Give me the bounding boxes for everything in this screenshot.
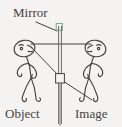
object-label: Object (5, 107, 40, 120)
image-front-leg (79, 79, 88, 102)
object-face (19, 45, 33, 52)
incident-ray (31, 47, 60, 77)
image-back-leg (89, 78, 98, 102)
mirror-assembly (56, 24, 65, 127)
image-label: Image (75, 107, 107, 120)
image-face (87, 45, 101, 52)
image-back-arm (91, 63, 102, 76)
object-back-arm (17, 63, 28, 76)
object-back-leg (22, 78, 31, 102)
mirror-pivot-box (56, 74, 65, 83)
mirror-label: Mirror (13, 6, 48, 19)
object-stick-figure (13, 39, 41, 102)
image-torso (89, 57, 94, 79)
image-stick-figure (79, 39, 107, 102)
plane-mirror-ray-diagram: Mirror Object Image (0, 0, 122, 127)
mirror-leader-line (36, 22, 57, 31)
object-torso (27, 57, 32, 79)
object-front-leg (31, 79, 40, 102)
